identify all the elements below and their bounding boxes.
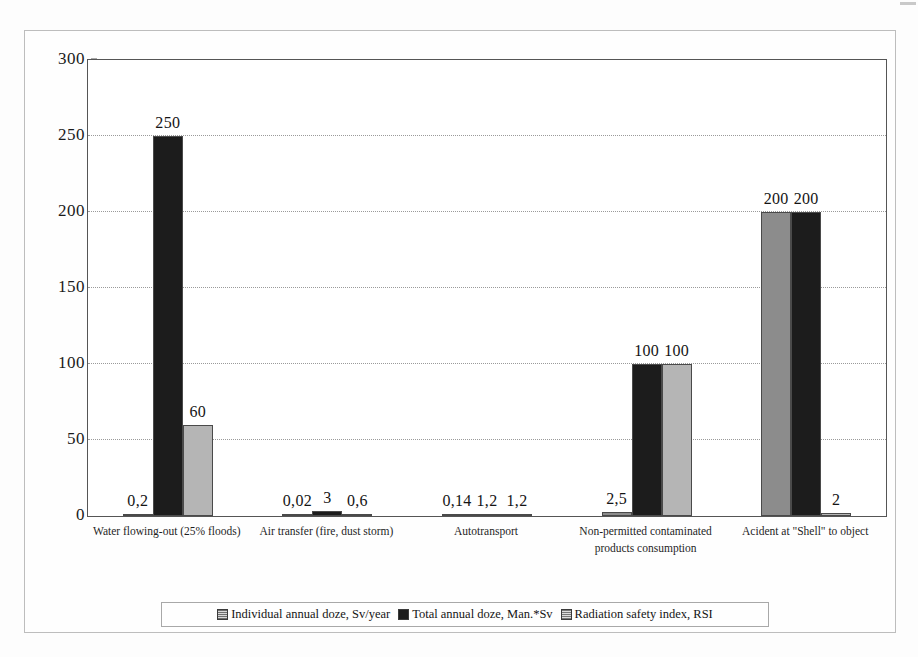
bar-value-label: 250 [155,114,180,132]
bar-value-label: 2,5 [606,490,627,508]
bar [183,425,213,516]
bar-value-label: 3 [323,489,331,507]
bar-value-label: 100 [634,342,659,360]
bar-value-label: 1,2 [477,492,498,510]
y-axis: 050100150200250300 [25,59,85,517]
gridline [88,135,886,136]
bar [342,514,372,517]
x-axis-category-label: Acident at "Shell" to object [720,523,890,540]
legend-label: Radiation safety index, RSI [575,607,713,622]
x-axis-category-label: Non-permitted contaminated products cons… [571,523,721,556]
bar [472,514,502,517]
bar [821,513,851,516]
legend-swatch-icon [217,609,228,620]
bar-value-label: 1,2 [507,492,528,510]
x-axis-category-label: Water flowing-out (25% floods) [92,523,242,540]
bar [632,364,662,516]
bar [442,514,472,517]
y-axis-tick-label: 150 [33,277,85,297]
bar-value-label: 200 [794,190,819,208]
legend-label: Individual annual doze, Sv/year [231,607,390,622]
bar [502,514,532,517]
bar [602,512,632,516]
y-axis-tick-label: 50 [33,429,85,449]
screenshot-root: 050100150200250300 0,2250600,0230,60,141… [0,0,918,657]
bar [761,212,791,516]
legend-swatch-icon [398,609,409,620]
y-axis-tick-label: 100 [33,353,85,373]
chart-outer-frame: 050100150200250300 0,2250600,0230,60,141… [24,30,896,633]
legend-label: Total annual doze, Man.*Sv [412,607,552,622]
x-axis-category-label: Air transfer (fire, dust storm) [256,523,396,540]
x-axis-category-labels: Water flowing-out (25% floods)Air transf… [87,523,887,593]
legend-item[interactable]: Radiation safety index, RSI [557,607,717,622]
plot-area: 0,2250600,0230,60,141,21,22,510010020020… [87,59,887,517]
bar-value-label: 2 [832,491,840,509]
bar [153,136,183,516]
y-axis-tick-label: 300 [33,49,85,69]
chart-legend: Individual annual doze, Sv/yearTotal ann… [161,602,769,627]
bar [123,514,153,517]
legend-item[interactable]: Individual annual doze, Sv/year [213,607,394,622]
legend-item[interactable]: Total annual doze, Man.*Sv [394,607,556,622]
y-axis-tick-label: 0 [33,505,85,525]
y-axis-tick-label: 250 [33,125,85,145]
bar-value-label: 60 [189,403,206,421]
bar [282,514,312,517]
bar-value-label: 0,02 [283,492,312,510]
x-axis-category-label: Autotransport [421,523,551,540]
bar-value-label: 0,14 [442,492,471,510]
bar-value-label: 0,2 [127,492,148,510]
bar [662,364,692,516]
bar [312,511,342,516]
y-axis-tick-label: 200 [33,201,85,221]
bar-value-label: 0,6 [347,492,368,510]
bar-value-label: 100 [664,342,689,360]
scan-edge-mark-top-right [900,2,916,5]
bar-value-label: 200 [764,190,789,208]
bar [791,212,821,516]
legend-swatch-icon [561,609,572,620]
